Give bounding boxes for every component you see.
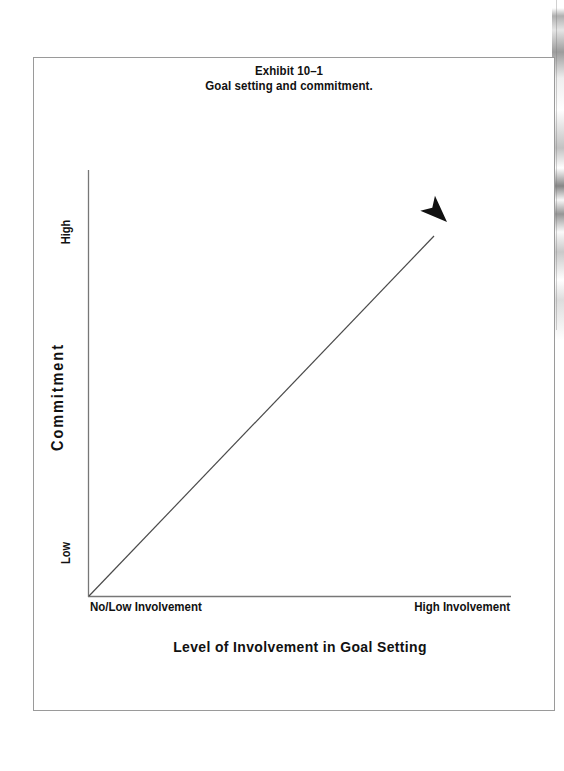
y-axis-title: Commitment xyxy=(49,312,67,483)
y-axis-tick-high: High xyxy=(59,206,73,258)
scan-edge-line-artifact xyxy=(556,0,557,330)
x-axis-tick-no-low-involvement: No/Low Involvement xyxy=(90,600,202,614)
exhibit-caption: Exhibit 10–1 Goal setting and commitment… xyxy=(33,64,545,94)
x-axis-tick-high-involvement: High Involvement xyxy=(414,600,510,614)
exhibit-caption-line-1: Exhibit 10–1 xyxy=(53,64,524,79)
x-axis-title: Level of Involvement in Goal Setting xyxy=(103,638,497,655)
exhibit-caption-line-2: Goal setting and commitment. xyxy=(53,79,524,94)
y-axis-tick-low: Low xyxy=(59,527,73,579)
